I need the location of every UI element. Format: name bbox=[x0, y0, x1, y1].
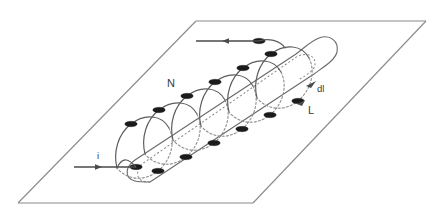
plane-edge-left bbox=[18, 21, 196, 203]
coil-turn-3-front bbox=[172, 89, 225, 140]
label-turns-N: N bbox=[167, 77, 175, 89]
element-arrow-dl bbox=[306, 81, 316, 88]
current-marker bbox=[237, 65, 249, 70]
plane-surface bbox=[18, 21, 426, 203]
current-marker bbox=[209, 79, 221, 84]
label-current-i: i bbox=[97, 150, 99, 161]
current-marker bbox=[236, 126, 248, 131]
coil-turn-6 bbox=[256, 47, 313, 108]
current-marker bbox=[265, 51, 277, 56]
current-arrow-top bbox=[222, 38, 229, 44]
label-length-L: L bbox=[308, 104, 314, 116]
current-arrow-bottom bbox=[95, 164, 102, 170]
current-marker bbox=[125, 121, 137, 126]
current-marker bbox=[180, 154, 192, 159]
label-element-dl: dl bbox=[317, 83, 324, 94]
current-markers bbox=[125, 38, 304, 173]
diagram-canvas: N L dl i bbox=[0, 0, 443, 215]
physics-diagram-solenoid: N L dl i bbox=[0, 0, 443, 215]
plane-edge-right bbox=[253, 21, 426, 203]
coil-turn-2-front bbox=[144, 103, 197, 154]
amperian-loop-hidden-segment bbox=[138, 55, 315, 183]
current-marker bbox=[152, 168, 164, 173]
current-marker bbox=[181, 93, 193, 98]
coil-turn-6-front bbox=[256, 47, 309, 98]
current-marker bbox=[264, 112, 276, 117]
current-marker bbox=[153, 107, 165, 112]
current-marker bbox=[208, 140, 220, 145]
